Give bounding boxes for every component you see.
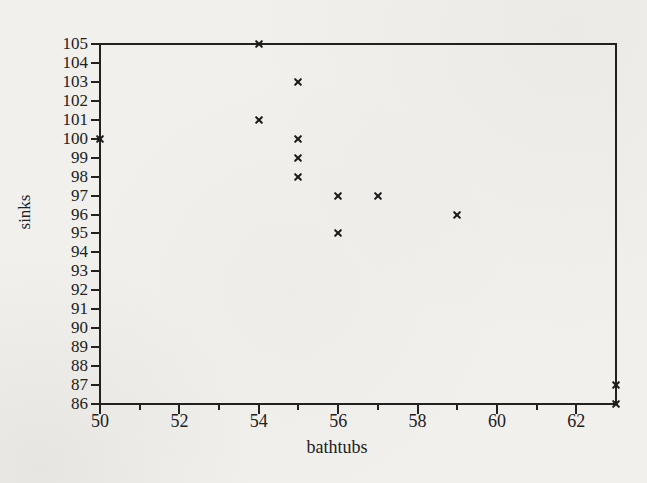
y-tick-label: 90 xyxy=(38,318,88,338)
data-point-marker xyxy=(611,399,621,409)
y-tick xyxy=(91,384,100,386)
y-tick xyxy=(91,232,100,234)
data-point-marker xyxy=(293,172,303,182)
data-point-marker xyxy=(611,380,621,390)
plot-frame xyxy=(99,43,617,405)
y-tick xyxy=(91,81,100,83)
x-axis-title: bathtubs xyxy=(277,437,397,457)
y-tick xyxy=(91,43,100,45)
y-tick xyxy=(91,176,100,178)
x-tick-label: 54 xyxy=(237,411,281,431)
data-point-marker xyxy=(293,153,303,163)
data-point-marker xyxy=(293,77,303,87)
y-tick-label: 96 xyxy=(38,205,88,225)
y-tick xyxy=(91,119,100,121)
x-minor-tick xyxy=(139,404,141,410)
y-tick-label: 97 xyxy=(38,186,88,206)
data-point-marker xyxy=(254,39,264,49)
y-tick-label: 93 xyxy=(38,261,88,281)
y-tick-label: 95 xyxy=(38,223,88,243)
y-tick-label: 103 xyxy=(38,72,88,92)
y-tick xyxy=(91,308,100,310)
y-tick-label: 99 xyxy=(38,148,88,168)
x-minor-tick xyxy=(536,404,538,410)
x-minor-tick xyxy=(456,404,458,410)
y-tick-label: 91 xyxy=(38,299,88,319)
y-tick xyxy=(91,214,100,216)
y-tick-label: 105 xyxy=(38,34,88,54)
x-tick-label: 60 xyxy=(475,411,519,431)
y-tick-label: 87 xyxy=(38,375,88,395)
data-point-marker xyxy=(254,115,264,125)
data-point-marker xyxy=(333,228,343,238)
y-tick xyxy=(91,62,100,64)
y-tick xyxy=(91,327,100,329)
y-tick xyxy=(91,365,100,367)
y-tick xyxy=(91,100,100,102)
data-point-marker xyxy=(333,191,343,201)
x-tick-label: 58 xyxy=(396,411,440,431)
y-tick-label: 88 xyxy=(38,356,88,376)
y-tick-label: 102 xyxy=(38,91,88,111)
x-minor-tick xyxy=(297,404,299,410)
y-tick-label: 104 xyxy=(38,53,88,73)
data-point-marker xyxy=(293,134,303,144)
y-tick-label: 89 xyxy=(38,337,88,357)
x-tick-label: 56 xyxy=(316,411,360,431)
y-tick xyxy=(91,195,100,197)
x-minor-tick xyxy=(218,404,220,410)
x-tick-label: 62 xyxy=(554,411,598,431)
y-axis-title: sinks xyxy=(15,182,35,242)
data-point-marker xyxy=(373,191,383,201)
y-tick xyxy=(91,289,100,291)
x-minor-tick xyxy=(377,404,379,410)
y-tick-label: 92 xyxy=(38,280,88,300)
x-tick-label: 50 xyxy=(78,411,122,431)
y-tick-label: 100 xyxy=(38,129,88,149)
y-tick-label: 94 xyxy=(38,242,88,262)
y-tick xyxy=(91,157,100,159)
y-tick xyxy=(91,251,100,253)
data-point-marker xyxy=(452,210,462,220)
scatter-plot: sinks bathtubs 1051041031021011009998979… xyxy=(0,0,647,483)
y-tick-label: 98 xyxy=(38,167,88,187)
y-tick xyxy=(91,346,100,348)
data-point-marker xyxy=(95,134,105,144)
x-tick-label: 52 xyxy=(157,411,201,431)
y-tick-label: 101 xyxy=(38,110,88,130)
y-tick xyxy=(91,270,100,272)
